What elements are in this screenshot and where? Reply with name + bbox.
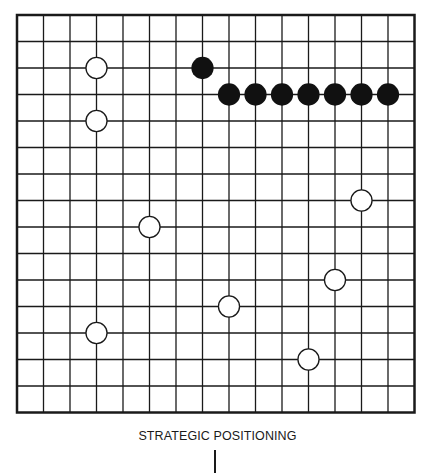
caption-pointer-line xyxy=(214,450,216,473)
black-stone xyxy=(350,83,372,105)
black-stone xyxy=(271,83,293,105)
board-border xyxy=(17,15,415,413)
black-stone xyxy=(191,57,213,79)
black-stone xyxy=(324,83,346,105)
white-stone xyxy=(86,57,107,78)
stones-layer xyxy=(86,57,399,370)
diagram-caption: STRATEGIC POSITIONING xyxy=(0,429,435,443)
white-stone xyxy=(86,110,107,131)
white-stone xyxy=(218,296,239,317)
black-stone xyxy=(297,83,319,105)
black-stone xyxy=(218,83,240,105)
white-stone xyxy=(351,190,372,211)
white-stone xyxy=(324,269,345,290)
board-grid xyxy=(17,15,415,413)
go-board xyxy=(0,0,435,425)
white-stone xyxy=(139,216,160,237)
black-stone xyxy=(244,83,266,105)
white-stone xyxy=(298,349,319,370)
black-stone xyxy=(377,83,399,105)
white-stone xyxy=(86,322,107,343)
